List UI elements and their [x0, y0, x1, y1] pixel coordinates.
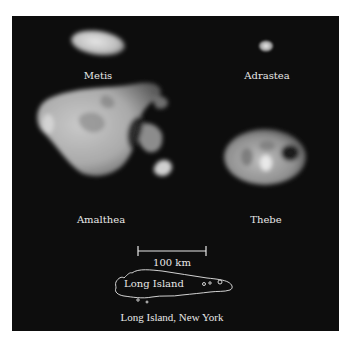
moon-label-thebe: Thebe: [250, 214, 281, 226]
comparison-caption: Long Island, New York: [121, 311, 224, 323]
metis-image: [70, 27, 127, 58]
long-island-label: Long Island: [124, 278, 184, 290]
moon-label-amalthea: Amalthea: [77, 214, 125, 226]
moon-label-metis: Metis: [84, 70, 113, 82]
figure-panel: Metis Adrastea Amalthea Thebe 100 km Lon…: [12, 16, 339, 331]
amalthea-image: [37, 83, 172, 176]
moon-label-adrastea: Adrastea: [244, 70, 289, 82]
scale-bar: [138, 246, 206, 256]
thebe-image: [224, 129, 306, 185]
scale-bar-label: 100 km: [153, 257, 191, 269]
adrastea-image: [259, 41, 273, 52]
